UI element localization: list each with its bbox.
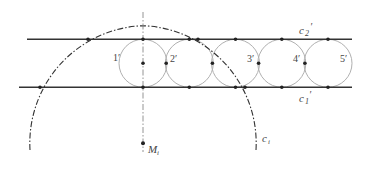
center-mi [141,141,145,145]
label-3: 3′ [247,53,254,64]
svg-text:′: ′ [309,89,312,100]
label-c1-prime: c 1 ′ [299,89,312,106]
label-ci: c i [262,132,270,146]
svg-text:i: i [268,138,270,146]
label-2: 2′ [170,53,177,64]
svg-text:c: c [262,132,267,144]
points [38,38,330,146]
label-5: 5′ [340,53,347,64]
svg-text:′: ′ [310,21,313,32]
svg-text:c: c [299,24,304,36]
svg-text:2: 2 [305,29,309,38]
geometry-diagram: 1′ 2′ 3′ 4′ 5′ c 2 ′ c 1 ′ c i M i [0,0,366,177]
label-c2-prime: c 2 ′ [299,21,313,38]
label-mi: M i [147,143,159,157]
label-1: 1′ [113,52,120,63]
tangent-circles [119,39,352,87]
svg-text:i: i [157,149,159,157]
label-4: 4′ [293,53,300,64]
svg-text:c: c [299,92,304,104]
